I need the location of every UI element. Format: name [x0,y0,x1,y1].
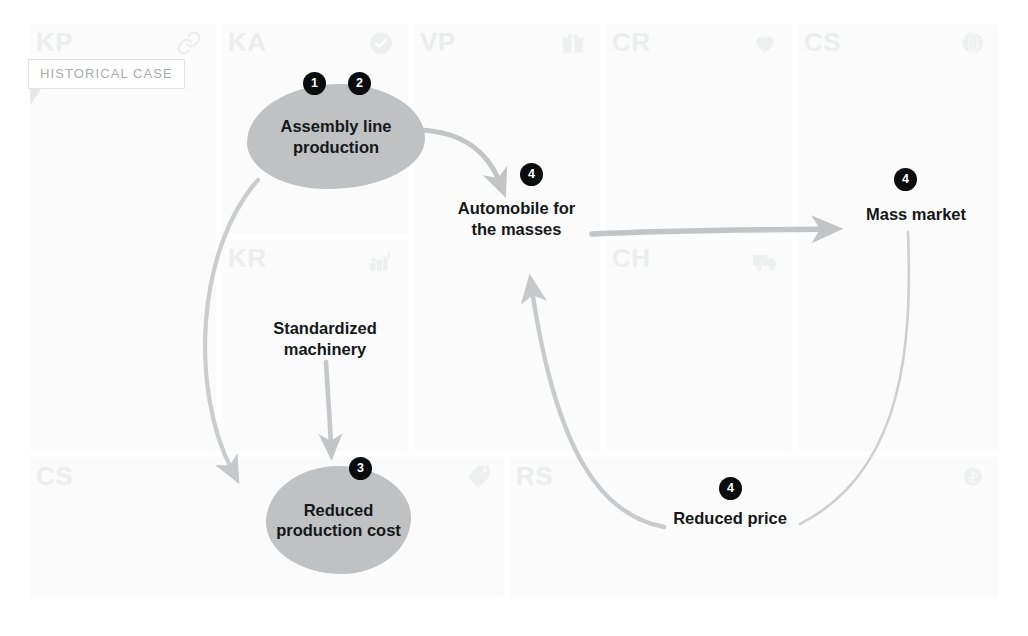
arrow-machinery-to-cost [326,362,331,446]
badge-step-4-automobile[interactable]: 4 [520,163,543,186]
arrow-automobile-to-massmarket [592,229,826,234]
badge-step-4-mass-market[interactable]: 4 [894,168,917,191]
badge-step-4-reduced-price[interactable]: 4 [719,477,742,500]
node-reduced-production-cost[interactable]: Reduced production cost [266,466,411,574]
arrow-assembly-to-automobile [420,130,500,183]
node-automobile-for-the-masses[interactable]: Automobile for the masses [449,198,584,240]
business-model-canvas-diagram: KP KA VP CR CS KR CH CS RS [0,0,1028,636]
historical-case-tag-tail [30,88,42,105]
node-standardized-machinery[interactable]: Standardized machinery [240,318,410,360]
badge-step-2[interactable]: 2 [348,72,371,95]
badge-step-1[interactable]: 1 [303,72,326,95]
arrow-price-to-automobile [532,290,664,527]
historical-case-tag: HISTORICAL CASE [28,59,185,89]
badge-step-3[interactable]: 3 [349,457,372,480]
node-mass-market[interactable]: Mass market [836,204,996,225]
connector-layer [0,0,1028,636]
line-massmarket-to-price [800,232,909,524]
node-reduced-price[interactable]: Reduced price [670,508,790,529]
